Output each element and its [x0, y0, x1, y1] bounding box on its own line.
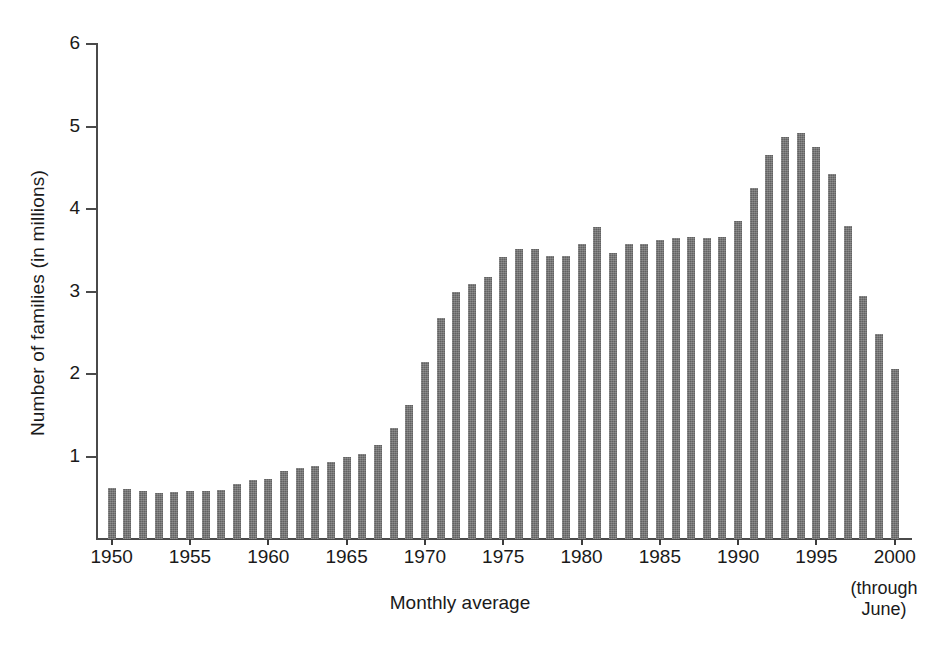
bar: [844, 226, 852, 540]
chart-figure: Number of families (in millions) 123456 …: [0, 0, 951, 652]
bar: [531, 249, 539, 539]
y-axis-tick-label: 6: [20, 33, 80, 52]
x-axis-title: Monthly average: [330, 592, 590, 614]
bar: [249, 480, 257, 539]
x-axis-tick-label: 1975: [463, 546, 543, 568]
x-axis-tick-label: 1985: [620, 546, 700, 568]
x-axis-tick: [267, 538, 269, 545]
x-axis-tick: [502, 538, 504, 545]
y-axis-tick-label: 2: [20, 363, 80, 382]
bar: [358, 454, 366, 539]
bar: [327, 462, 335, 539]
bar: [625, 244, 633, 539]
bar: [123, 489, 131, 539]
x-axis-tick: [815, 538, 817, 545]
bar: [405, 405, 413, 539]
bar: [170, 492, 178, 539]
bar: [280, 471, 288, 539]
bar: [139, 491, 147, 539]
bar: [546, 256, 554, 539]
bar: [421, 362, 429, 539]
bar: [578, 244, 586, 539]
y-axis-tick-label-wrap: 1: [20, 446, 80, 466]
x-axis-tick-label: 1990: [698, 546, 778, 568]
plot-area: [96, 44, 912, 539]
bar: [202, 491, 210, 539]
bar: [750, 188, 758, 539]
y-axis-tick-label-wrap: 4: [20, 198, 80, 218]
bar: [672, 238, 680, 539]
x-axis-tick: [346, 538, 348, 545]
bar: [515, 249, 523, 539]
x-axis-tick-label: 1950: [72, 546, 152, 568]
y-axis-tick-label-wrap: 5: [20, 116, 80, 136]
bar: [108, 488, 116, 539]
bar: [656, 240, 664, 539]
bar: [687, 237, 695, 539]
bar: [499, 257, 507, 539]
bar: [781, 137, 789, 539]
x-axis-note: (through June): [828, 578, 940, 620]
x-axis-tick-label: 1965: [307, 546, 387, 568]
y-axis-tick-label-wrap: 3: [20, 281, 80, 301]
x-axis-tick: [189, 538, 191, 545]
x-axis-tick: [581, 538, 583, 545]
y-axis-tick-label-wrap: 2: [20, 363, 80, 383]
bar: [296, 468, 304, 539]
x-axis-tick: [424, 538, 426, 545]
y-axis-tick-label-wrap: 6: [20, 33, 80, 53]
x-axis-note-line-2: June): [828, 599, 940, 620]
bar: [311, 466, 319, 539]
bar: [374, 445, 382, 539]
x-axis-tick: [111, 538, 113, 545]
bar: [233, 484, 241, 539]
bar: [812, 147, 820, 539]
bar: [484, 277, 492, 539]
bar: [217, 490, 225, 540]
bar: [734, 221, 742, 539]
y-axis-tick-label: 4: [20, 198, 80, 217]
bar: [828, 174, 836, 539]
y-axis-tick-label: 3: [20, 281, 80, 300]
bar: [264, 479, 272, 539]
bar: [797, 133, 805, 539]
bar: [343, 457, 351, 539]
bar: [186, 491, 194, 539]
x-axis-tick-label: 1980: [542, 546, 622, 568]
y-axis-tick-label: 5: [20, 116, 80, 135]
x-axis-tick: [894, 538, 896, 545]
bar: [640, 244, 648, 539]
x-axis-tick-label: 1995: [776, 546, 856, 568]
bar: [609, 253, 617, 539]
bar: [718, 237, 726, 539]
x-axis-tick: [737, 538, 739, 545]
bar: [437, 318, 445, 539]
x-axis-tick-label: 2000: [855, 546, 935, 568]
bar: [859, 296, 867, 539]
x-axis-tick-label: 1955: [150, 546, 230, 568]
bar: [390, 428, 398, 539]
bar: [703, 238, 711, 539]
bar: [468, 284, 476, 539]
bar: [562, 256, 570, 539]
y-axis-tick-label: 1: [20, 446, 80, 465]
x-axis-tick-label: 1970: [385, 546, 465, 568]
bar: [875, 334, 883, 539]
x-axis-note-line-1: (through: [828, 578, 940, 599]
x-axis-tick: [659, 538, 661, 545]
bar: [452, 292, 460, 539]
bar: [891, 369, 899, 539]
bar: [155, 493, 163, 539]
x-axis-tick-label: 1960: [228, 546, 308, 568]
bar: [765, 155, 773, 539]
bar: [593, 227, 601, 539]
